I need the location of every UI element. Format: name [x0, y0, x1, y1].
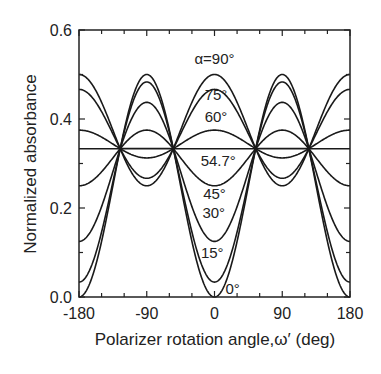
- y-tick-label: 0.4: [50, 111, 72, 128]
- curve-label: 30°: [202, 204, 225, 221]
- y-tick-label: 0.2: [50, 200, 72, 217]
- x-axis-label: Polarizer rotation angle,ω′ (deg): [95, 330, 335, 349]
- curve-label: α=90°: [194, 50, 234, 67]
- curve-label: 60°: [205, 108, 228, 125]
- x-tick-label: 180: [337, 305, 364, 322]
- y-axis-label: Normalized absorbance: [21, 74, 40, 254]
- x-tick-label: -90: [135, 305, 158, 322]
- x-tick-label: 0: [210, 305, 219, 322]
- curve-label: 15°: [201, 244, 224, 261]
- x-tick-label: -180: [63, 305, 95, 322]
- y-tick-label: 0.0: [50, 289, 72, 306]
- curve-label: 0°: [225, 280, 239, 297]
- curve-label: 75°: [205, 86, 228, 103]
- curve-label: 54.7°: [201, 152, 236, 169]
- curve-label: 45°: [203, 185, 226, 202]
- y-tick-label: 0.6: [50, 22, 72, 39]
- x-tick-label: 90: [273, 305, 291, 322]
- absorbance-chart: -180-900901800.00.20.40.6 α=90°75°60°54.…: [0, 0, 381, 374]
